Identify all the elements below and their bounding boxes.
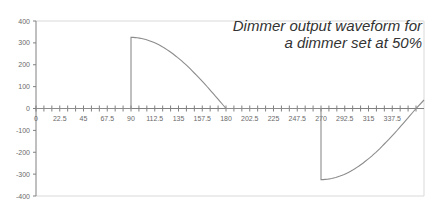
x-tick-label: 315: [363, 115, 375, 122]
y-tick-label: -100: [16, 127, 30, 134]
x-tick-label: 22.5: [53, 115, 67, 122]
x-tick-label: 202.5: [241, 115, 259, 122]
y-tick-label: 400: [18, 18, 30, 25]
x-tick-label: 180: [220, 115, 232, 122]
x-axis: 022.54567.590112.5135157.5180202.5225247…: [34, 106, 424, 122]
y-tick-label: 100: [18, 83, 30, 90]
chart-title: Dimmer output waveform for a dimmer set …: [233, 17, 422, 51]
x-tick-label: 135: [173, 115, 185, 122]
x-tick-label: 0: [34, 115, 38, 122]
y-tick-label: 300: [18, 39, 30, 46]
x-tick-label: 157.5: [193, 115, 211, 122]
y-tick-label: -400: [16, 193, 30, 200]
x-tick-label: 67.5: [100, 115, 114, 122]
x-tick-label: 337.5: [383, 115, 401, 122]
x-tick-label: 225: [268, 115, 280, 122]
y-tick-label: 200: [18, 61, 30, 68]
x-tick-label: 292.5: [336, 115, 354, 122]
y-tick-label: 0: [26, 105, 30, 112]
x-tick-label: 247.5: [288, 115, 306, 122]
x-tick-label: 112.5: [146, 115, 163, 122]
y-tick-label: -200: [16, 149, 30, 156]
x-tick-label: 90: [127, 115, 135, 122]
chart-title-line-1: Dimmer output waveform for: [233, 17, 422, 34]
y-axis: 4003002001000-100-200-300-400: [16, 18, 36, 200]
chart-title-line-2: a dimmer set at 50%: [233, 34, 422, 51]
y-tick-label: -300: [16, 171, 30, 178]
x-tick-label: 45: [80, 115, 88, 122]
